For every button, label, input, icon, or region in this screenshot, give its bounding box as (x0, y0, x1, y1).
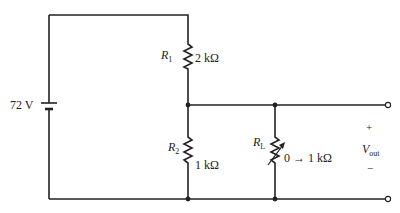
source-voltage-label: 72 V (10, 99, 33, 111)
r2-value: 1 kΩ (195, 159, 219, 171)
vout-label: Vout (362, 143, 380, 158)
vout-plus: + (366, 122, 372, 133)
circuit-diagram: 72 V R1 2 kΩ R2 1 kΩ RL 0 → 1 kΩ + Vout … (0, 0, 400, 213)
junction-dots (186, 103, 278, 202)
battery-icon (41, 103, 57, 109)
output-terminals (385, 102, 390, 201)
variable-arrow-icon (268, 142, 285, 165)
resistor-r1 (184, 40, 192, 105)
circuit-schematic (0, 0, 400, 213)
vout-minus: − (367, 163, 373, 174)
r2-label: R2 (168, 141, 179, 156)
r1-label: R1 (161, 49, 172, 64)
resistor-r2 (184, 105, 192, 199)
r1-value: 2 kΩ (195, 52, 219, 64)
wire-top (49, 15, 188, 40)
rl-value: 0 → 1 kΩ (284, 152, 332, 164)
rl-label: RL (253, 136, 265, 151)
